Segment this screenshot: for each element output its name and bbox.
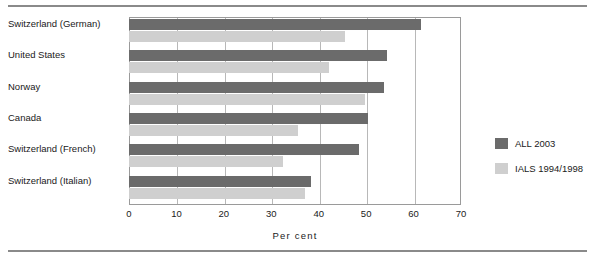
bar-group (129, 174, 461, 205)
legend-swatch-ials-1994-1998 (495, 163, 508, 174)
x-tick-label: 70 (456, 208, 467, 219)
chart-legend: ALL 2003 IALS 1994/1998 (495, 138, 590, 188)
category-label: Canada (8, 112, 126, 123)
x-tick-label: 0 (126, 208, 131, 219)
bar-group (129, 80, 461, 111)
x-tick-label: 50 (361, 208, 372, 219)
bar-group (129, 17, 461, 48)
bar-ials-1994-1998 (129, 94, 365, 105)
x-tick-label: 30 (266, 208, 277, 219)
legend-label-all-2003: ALL 2003 (515, 138, 555, 149)
bar-rows (129, 17, 461, 205)
legend-item-ials-1994-1998: IALS 1994/1998 (495, 163, 590, 174)
x-tick-label: 60 (408, 208, 419, 219)
bar-group (129, 142, 461, 173)
category-label: Switzerland (Italian) (8, 175, 126, 186)
x-tick-label: 10 (171, 208, 182, 219)
bar-all-2003 (129, 176, 311, 187)
bar-ials-1994-1998 (129, 31, 345, 42)
bar-group (129, 111, 461, 142)
x-tick-label: 40 (313, 208, 324, 219)
bottom-divider-rule (8, 250, 587, 252)
category-label: Switzerland (French) (8, 143, 126, 154)
chart-figure: Switzerland (German)United StatesNorwayC… (0, 0, 595, 267)
bar-ials-1994-1998 (129, 188, 305, 199)
bar-all-2003 (129, 144, 359, 155)
x-axis-title: Per cent (129, 230, 461, 241)
bar-all-2003 (129, 82, 384, 93)
bar-all-2003 (129, 19, 421, 30)
bar-ials-1994-1998 (129, 125, 298, 136)
category-label: United States (8, 49, 126, 60)
category-label: Switzerland (German) (8, 18, 126, 29)
bar-all-2003 (129, 113, 368, 124)
legend-swatch-all-2003 (495, 138, 508, 149)
bar-group (129, 48, 461, 79)
legend-item-all-2003: ALL 2003 (495, 138, 590, 149)
x-tick-label: 20 (219, 208, 230, 219)
legend-label-ials-1994-1998: IALS 1994/1998 (515, 163, 583, 174)
category-labels: Switzerland (German)United StatesNorwayC… (8, 17, 126, 205)
bar-all-2003 (129, 50, 387, 61)
bar-ials-1994-1998 (129, 62, 329, 73)
top-divider-rule (8, 5, 587, 7)
category-label: Norway (8, 81, 126, 92)
bar-ials-1994-1998 (129, 156, 283, 167)
